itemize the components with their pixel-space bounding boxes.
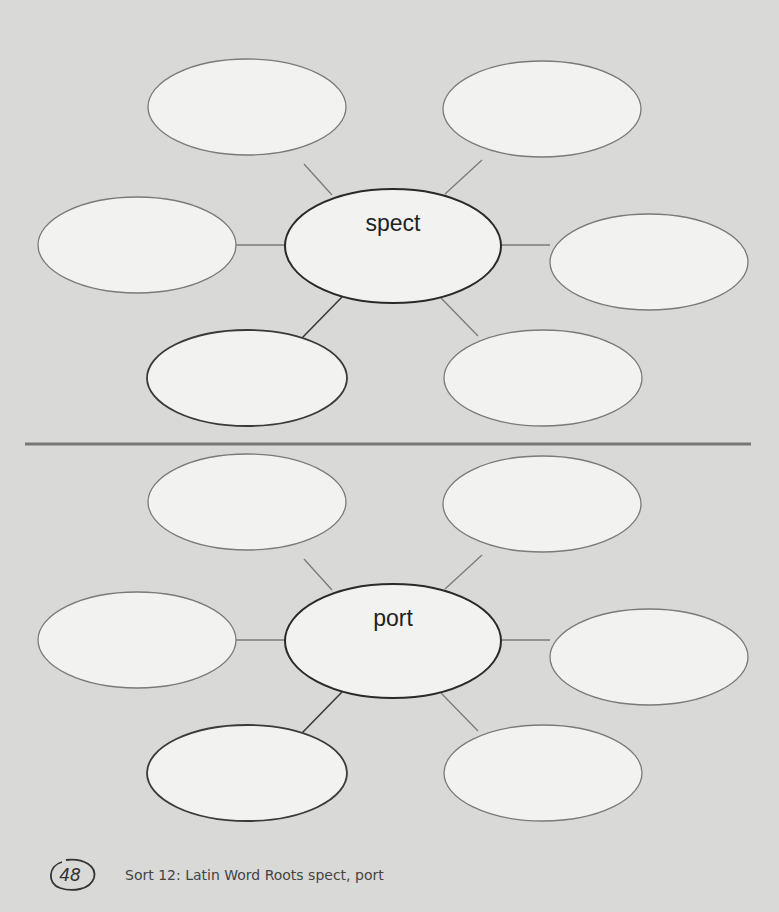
connector-line-bottom-left xyxy=(302,692,342,733)
word-web-spect: spect xyxy=(38,59,748,426)
root-label: port xyxy=(373,605,413,631)
footer-caption: Sort 12: Latin Word Roots spect, port xyxy=(125,867,384,883)
footer: 48 Sort 12: Latin Word Roots spect, port xyxy=(51,860,384,890)
answer-bubble-left[interactable] xyxy=(38,592,236,688)
answer-bubble-bottom-left[interactable] xyxy=(147,725,347,821)
answer-bubble-top-left[interactable] xyxy=(148,454,346,550)
root-label: spect xyxy=(366,210,422,236)
answer-bubble-top-right[interactable] xyxy=(443,61,641,157)
answer-bubble-bottom-left[interactable] xyxy=(147,330,347,426)
connector-line-bottom-right xyxy=(441,298,478,336)
connector-line-top-right xyxy=(445,555,482,589)
answer-bubble-bottom-right[interactable] xyxy=(444,330,642,426)
connector-line-bottom-left xyxy=(302,297,342,338)
answer-bubble-top-right[interactable] xyxy=(443,456,641,552)
page-number: 48 xyxy=(59,865,81,885)
root-bubble-spect xyxy=(285,189,501,303)
answer-bubble-bottom-right[interactable] xyxy=(444,725,642,821)
connector-line-top-right xyxy=(445,160,482,194)
word-web-canvas: spectport 48 Sort 12: Latin Word Roots s… xyxy=(0,0,779,912)
word-web-port: port xyxy=(38,454,748,821)
connector-line-bottom-right xyxy=(441,693,478,731)
answer-bubble-right[interactable] xyxy=(550,214,748,310)
root-bubble-port xyxy=(285,584,501,698)
answer-bubble-right[interactable] xyxy=(550,609,748,705)
answer-bubble-left[interactable] xyxy=(38,197,236,293)
connector-line-top-left xyxy=(304,164,332,195)
answer-bubble-top-left[interactable] xyxy=(148,59,346,155)
connector-line-top-left xyxy=(304,559,332,590)
